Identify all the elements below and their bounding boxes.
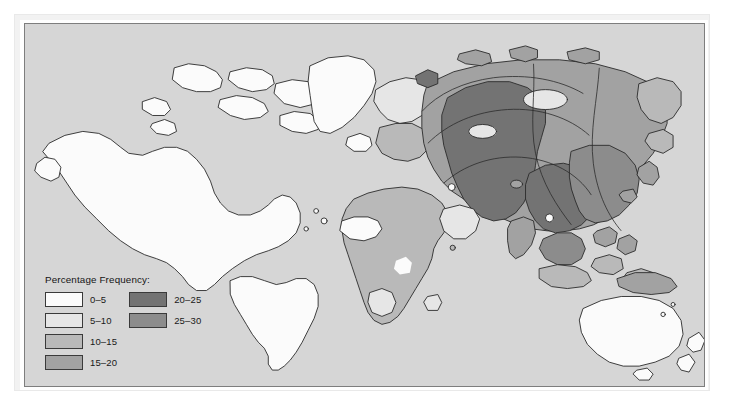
legend-swatch-15-20 [45,355,83,370]
enclave-mid-asia [511,180,523,188]
legend-column-right: 20–25 25–30 [129,291,201,371]
legend-item-15-20: 15–20 [45,354,117,371]
legend-label-10-15: 10–15 [90,337,117,347]
legend-label-5-10: 5–10 [90,316,112,326]
legend-item-5-10: 5–10 [45,312,117,329]
legend-label-20-25: 20–25 [174,295,201,305]
enclave-white-asia-b [545,214,553,222]
legend-swatch-5-10 [45,313,83,328]
legend-column-left: 0–5 5–10 10–15 15–20 [45,291,117,371]
legend-label-15-20: 15–20 [90,358,117,368]
legend-columns: 0–5 5–10 10–15 15–20 20–25 [45,291,245,371]
figure-root: .c0 { fill: #fbfbfb; } .c1 { fill: #e6e6… [0,0,731,412]
legend-item-25-30: 25–30 [129,312,201,329]
map-legend: Percentage Frequency: 0–5 5–10 10–15 15– [45,274,245,371]
legend-title: Percentage Frequency: [45,274,245,285]
legend-item-10-15: 10–15 [45,333,117,350]
legend-label-0-5: 0–5 [90,295,106,305]
legend-swatch-10-15 [45,334,83,349]
legend-label-25-30: 25–30 [174,316,201,326]
enclave-white-asia-a [448,184,455,191]
legend-item-20-25: 20–25 [129,291,201,308]
legend-item-0-5: 0–5 [45,291,117,308]
legend-swatch-25-30 [129,313,167,328]
legend-swatch-0-5 [45,292,83,307]
enclave-light-central-asia [469,124,497,138]
enclave-light-siberia [524,90,568,110]
legend-swatch-20-25 [129,292,167,307]
